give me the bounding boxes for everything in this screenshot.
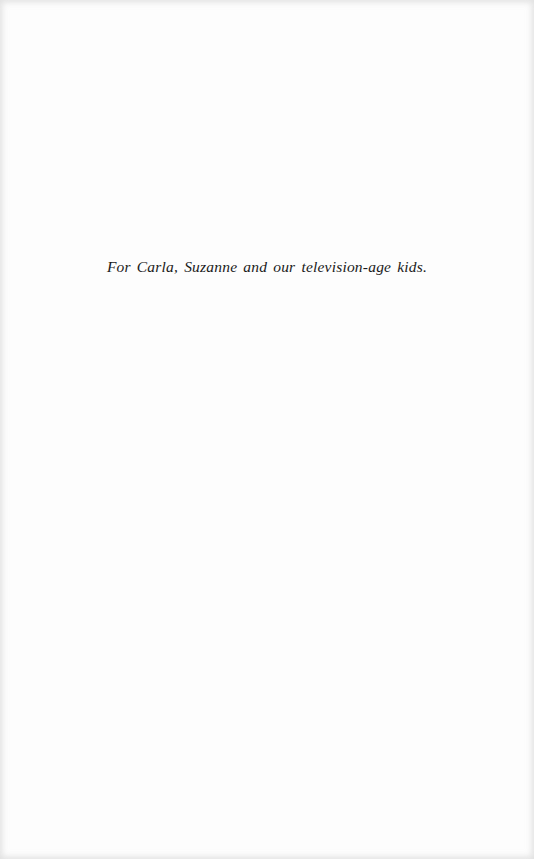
- book-page: For Carla, Suzanne and our television-ag…: [0, 0, 534, 859]
- dedication-text: For Carla, Suzanne and our television-ag…: [0, 258, 534, 276]
